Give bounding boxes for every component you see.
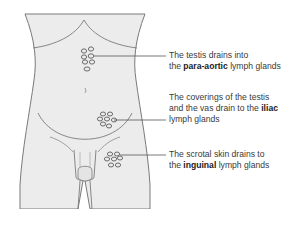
- term-para-aortic: para-aortic: [183, 61, 227, 71]
- label-inguinal: The scrotal skin drains to the inguinal …: [169, 149, 269, 171]
- label-line: The testis drains into: [169, 50, 281, 61]
- label-line: The scrotal skin drains to: [169, 149, 269, 160]
- label-para-aortic: The testis drains into the para-aortic l…: [169, 50, 281, 72]
- label-iliac: The coverings of the testis and the vas …: [169, 92, 278, 125]
- term-iliac: iliac: [261, 103, 278, 113]
- term-inguinal: inguinal: [183, 160, 216, 170]
- label-line: the para-aortic lymph glands: [169, 61, 281, 72]
- label-line: the inguinal lymph glands: [169, 160, 269, 171]
- glans: [78, 166, 92, 181]
- label-line: The coverings of the testis: [169, 92, 278, 103]
- label-line: and the vas drain to the iliac: [169, 103, 278, 114]
- label-line: lymph glands: [169, 114, 278, 125]
